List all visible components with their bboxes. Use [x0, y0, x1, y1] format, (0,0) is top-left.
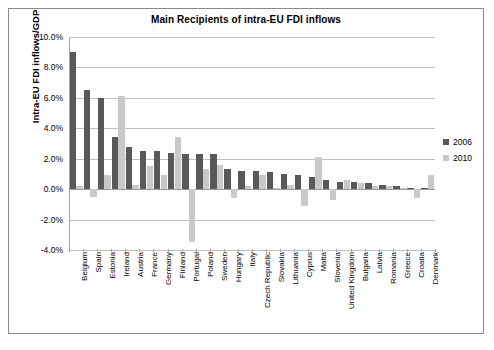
bar-2010[interactable]: [175, 137, 181, 189]
bar-2006[interactable]: [267, 172, 273, 189]
bar-2010[interactable]: [358, 183, 364, 189]
bar-2010[interactable]: [372, 186, 378, 189]
x-axis-tick: [111, 249, 112, 252]
x-axis-tick: [266, 249, 267, 252]
bar-2010[interactable]: [189, 189, 195, 242]
x-axis-label-slot: Croatia: [407, 252, 421, 330]
bar-2006[interactable]: [70, 52, 76, 189]
x-axis-label-slot: Lithuania: [280, 252, 294, 330]
x-axis-tick: [210, 249, 211, 252]
x-axis-label-slot: France: [139, 252, 153, 330]
bar-group: [407, 37, 421, 250]
y-axis-tick-label: 10.0%: [17, 32, 63, 42]
bar-2010[interactable]: [287, 185, 293, 190]
bar-2006[interactable]: [84, 90, 90, 189]
bar-2006[interactable]: [140, 151, 146, 189]
bar-2006[interactable]: [253, 171, 259, 189]
plot-area: [69, 37, 435, 250]
bar-2010[interactable]: [217, 165, 223, 189]
x-axis-tick: [336, 249, 337, 252]
bar-2010[interactable]: [273, 188, 279, 190]
y-axis-tick-label: 4.0%: [17, 123, 63, 133]
x-axis-label-slot: Cyprus: [294, 252, 308, 330]
x-axis-tick: [280, 249, 281, 252]
chart-title: Main Recipients of intra-EU FDI inflows: [9, 14, 483, 25]
bar-group: [421, 37, 435, 250]
chart-legend: 20062010: [443, 137, 487, 169]
bar-2006[interactable]: [168, 153, 174, 190]
bar-2006[interactable]: [337, 182, 343, 190]
x-axis-tick: [351, 249, 352, 252]
bar-2006[interactable]: [309, 177, 315, 189]
x-axis-label-slot: Greece: [393, 252, 407, 330]
bar-2010[interactable]: [161, 175, 167, 189]
bar-2006[interactable]: [365, 183, 371, 189]
y-axis-tick-labels: 10.0%8.0%6.0%4.0%2.0%0.0%-2.0%-4.0%: [17, 37, 63, 250]
bar-2006[interactable]: [407, 188, 413, 190]
x-axis-label-slot: Romania: [379, 252, 393, 330]
bar-group: [69, 37, 83, 250]
x-axis-label-slot: Czech Republic: [252, 252, 266, 330]
bar-group: [139, 37, 153, 250]
legend-swatch-icon: [443, 139, 449, 145]
bar-2010[interactable]: [118, 96, 124, 189]
bar-2010[interactable]: [386, 186, 392, 189]
x-axis-tick: [393, 249, 394, 252]
bar-2006[interactable]: [295, 175, 301, 189]
bar-2006[interactable]: [351, 182, 357, 190]
bar-2006[interactable]: [281, 174, 287, 189]
bar-2006[interactable]: [224, 169, 230, 189]
bar-2006[interactable]: [182, 154, 188, 189]
bar-2006[interactable]: [393, 186, 399, 189]
bar-2010[interactable]: [231, 189, 237, 198]
bar-2006[interactable]: [379, 185, 385, 190]
bar-2010[interactable]: [104, 175, 110, 189]
bar-2006[interactable]: [421, 188, 427, 190]
bar-2010[interactable]: [76, 186, 82, 189]
x-axis-label-slot: Slovakia: [266, 252, 280, 330]
legend-label: 2010: [453, 153, 472, 163]
bar-2006[interactable]: [98, 98, 104, 189]
bar-2010[interactable]: [315, 157, 321, 189]
bar-2006[interactable]: [196, 154, 202, 189]
bar-2010[interactable]: [344, 180, 350, 189]
bar-2010[interactable]: [132, 185, 138, 190]
x-axis-tick: [407, 249, 408, 252]
bar-2010[interactable]: [90, 189, 96, 197]
chart-container: Main Recipients of intra-EU FDI inflows …: [8, 8, 484, 334]
bar-2006[interactable]: [154, 151, 160, 189]
bar-2006[interactable]: [112, 137, 118, 189]
bar-2006[interactable]: [238, 171, 244, 189]
legend-swatch-icon: [443, 155, 449, 161]
x-axis-tick: [125, 249, 126, 252]
legend-item[interactable]: 2010: [443, 153, 487, 163]
y-axis-tick-label: 2.0%: [17, 154, 63, 164]
bar-2006[interactable]: [323, 180, 329, 189]
bar-group: [280, 37, 294, 250]
x-axis-tick: [168, 249, 169, 252]
bar-2010[interactable]: [400, 188, 406, 190]
x-axis-tick: [83, 249, 84, 252]
bar-2010[interactable]: [147, 166, 153, 189]
bar-2010[interactable]: [203, 169, 209, 189]
y-axis-tick-label: 0.0%: [17, 184, 63, 194]
bar-2006[interactable]: [126, 147, 132, 190]
y-axis-tick-label: 6.0%: [17, 93, 63, 103]
bar-2010[interactable]: [428, 175, 434, 189]
x-axis-tick: [224, 249, 225, 252]
bar-2010[interactable]: [245, 186, 251, 189]
bar-group: [294, 37, 308, 250]
x-axis-tick: [421, 249, 422, 252]
x-axis-label-slot: Belgium: [69, 252, 83, 330]
bar-2010[interactable]: [259, 175, 265, 189]
bar-2006[interactable]: [210, 154, 216, 189]
x-axis-tick: [365, 249, 366, 252]
bar-2010[interactable]: [330, 189, 336, 200]
legend-item[interactable]: 2006: [443, 137, 487, 147]
bar-2010[interactable]: [301, 189, 307, 206]
x-axis-label-slot: Italy: [238, 252, 252, 330]
bar-group: [266, 37, 280, 250]
x-axis-label-slot: Bulgaria: [351, 252, 365, 330]
bar-2010[interactable]: [414, 189, 420, 198]
bar-group: [153, 37, 167, 250]
